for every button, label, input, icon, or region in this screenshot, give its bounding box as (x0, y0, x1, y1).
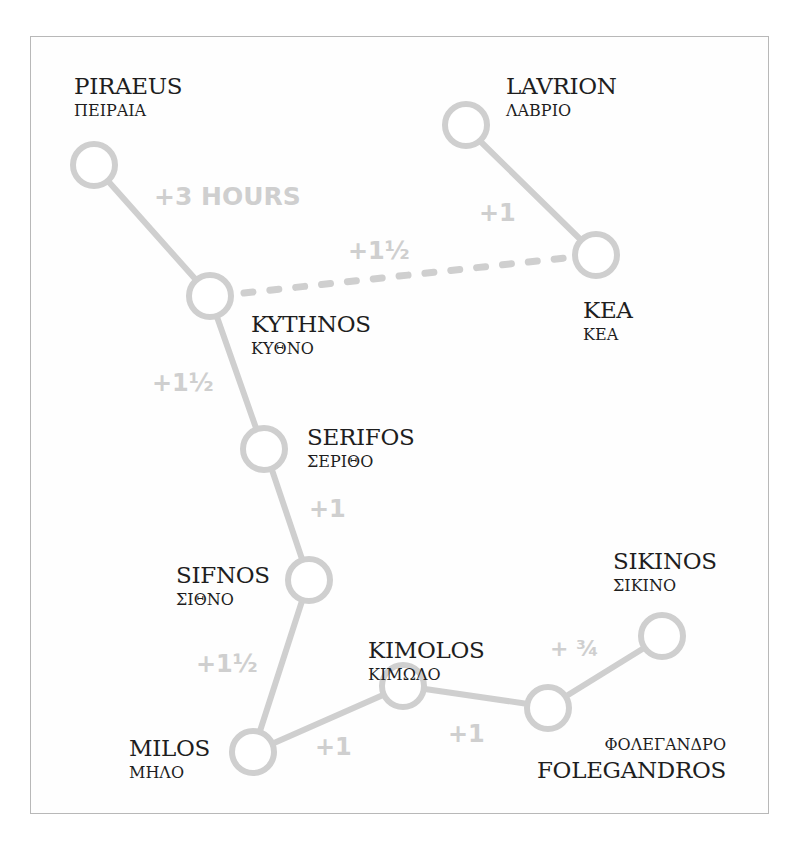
port-node-serifos[interactable] (243, 428, 285, 470)
port-label-milos: MILOS ΜΗΛΟ (129, 737, 210, 781)
port-label-sikinos: SIKINOS ΣΙΚΙΝΟ (613, 550, 717, 594)
port-label-piraeus: PIRAEUS ΠΕΙΡΑΙΑ (74, 75, 182, 119)
port-label-kythnos: KYTHNOS ΚΥΘΝΟ (251, 313, 371, 357)
port-node-sifnos[interactable] (288, 559, 330, 601)
port-name-greek: ΚΙΜΩΛΟ (368, 667, 484, 683)
port-name: KYTHNOS (251, 313, 371, 336)
port-name: MILOS (129, 737, 210, 760)
port-node-sikinos[interactable] (641, 615, 683, 657)
route-sifnos-milos (260, 601, 302, 731)
port-label-serifos: SERIFOS ΣΕΡΙΘΟ (307, 426, 414, 470)
port-name-greek: ΣΕΡΙΘΟ (307, 454, 414, 470)
port-name-greek: ΛΑΒΡΙΟ (506, 103, 617, 119)
port-name-greek: ΜΗΛΟ (129, 765, 210, 781)
duration-label-milos-kimolos: +1 (315, 735, 352, 759)
port-label-sifnos: SIFNOS ΣΙΘΝΟ (176, 564, 270, 608)
port-node-kythnos[interactable] (189, 275, 231, 317)
port-name: PIRAEUS (74, 75, 182, 98)
duration-label-kythnos-serifos: +1½ (152, 371, 214, 395)
port-name: SIFNOS (176, 564, 270, 587)
port-label-lavrion: LAVRION ΛΑΒΡΙΟ (506, 75, 617, 119)
port-node-milos[interactable] (232, 731, 274, 773)
port-name-greek: ΣΙΚΙΝΟ (613, 578, 717, 594)
duration-label-piraeus-kythnos: +3 HOURS (154, 184, 301, 209)
duration-label-kythnos-kea: +1½ (348, 239, 410, 263)
port-name: FOLEGANDROS (537, 759, 726, 782)
duration-label-sifnos-milos: +1½ (196, 652, 258, 676)
duration-label-lavrion-kea: +1 (479, 201, 516, 225)
route-kimolos-folegandros (425, 689, 528, 704)
port-name: SERIFOS (307, 426, 414, 449)
port-name-greek: ΚΕΑ (583, 327, 633, 343)
port-node-lavrion[interactable] (445, 104, 487, 146)
port-name-greek: ΚΥΘΝΟ (251, 341, 371, 357)
port-name-greek: ΣΙΘΝΟ (176, 592, 270, 608)
port-name: LAVRION (506, 75, 617, 98)
port-name-greek: ΠΕΙΡΑΙΑ (74, 103, 182, 119)
port-name: KIMOLOS (368, 639, 484, 662)
port-node-kea[interactable] (575, 234, 617, 276)
duration-label-folegandros-sikinos: + ¾ (550, 638, 599, 660)
route-serifos-sifnos (272, 470, 302, 559)
port-label-folegandros: ΦΟΛΕΓΑΝΔΡΟ FOLEGANDROS (537, 737, 726, 782)
port-node-piraeus[interactable] (73, 144, 115, 186)
duration-label-serifos-sifnos: +1 (309, 497, 346, 521)
port-name: SIKINOS (613, 550, 717, 573)
port-name: KEA (583, 299, 633, 322)
port-label-kimolos: KIMOLOS ΚΙΜΩΛΟ (368, 639, 484, 683)
duration-label-kimolos-folegandros: +1 (448, 722, 485, 746)
port-name-greek: ΦΟΛΕΓΑΝΔΡΟ (537, 737, 726, 753)
port-node-folegandros[interactable] (527, 687, 569, 729)
port-label-kea: KEA ΚΕΑ (583, 299, 633, 343)
